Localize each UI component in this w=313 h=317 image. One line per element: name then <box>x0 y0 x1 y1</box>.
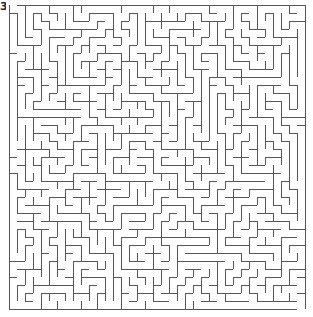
maze-walls <box>9 5 305 309</box>
maze-grid[interactable] <box>0 0 313 317</box>
